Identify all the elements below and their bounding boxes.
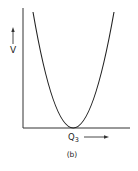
x-axis-label: Q3 (68, 132, 79, 144)
figure-caption: (b) (67, 150, 78, 159)
right-arrowhead-icon (104, 135, 109, 138)
up-arrowhead-icon (11, 27, 14, 32)
y-axis-label: V (10, 45, 17, 55)
y-axis-label-group: V (10, 27, 17, 55)
potential-curve (33, 12, 114, 128)
x-axis-label-subscript: 3 (75, 136, 79, 144)
potential-energy-diagram: V Q3 (b) (0, 0, 138, 171)
x-axis-label-group: Q3 (68, 132, 109, 144)
